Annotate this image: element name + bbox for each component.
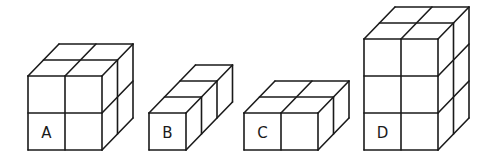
cuboid-c: C: [244, 81, 349, 150]
cuboid-a: A: [28, 44, 133, 150]
cuboids-diagram: ABCD: [0, 0, 495, 162]
shape-label: D: [377, 124, 389, 142]
shape-label: C: [257, 124, 267, 142]
shape-label: B: [162, 124, 172, 142]
shape-label: A: [41, 124, 52, 142]
cuboid-b: B: [149, 65, 233, 150]
cuboid-d: D: [364, 7, 469, 150]
